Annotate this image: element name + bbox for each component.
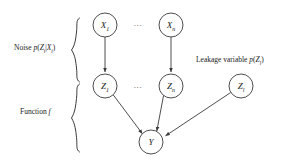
leakage-annotation-prefix: Leakage variable: [196, 55, 249, 64]
ellipsis-top: ...: [134, 18, 143, 28]
node-y[interactable]: Y: [139, 130, 163, 154]
function-brace: [72, 84, 80, 152]
noise-brace: [72, 18, 80, 82]
node-z1[interactable]: Z1: [93, 74, 117, 98]
diagram-svg: X1 Xn Z1 Zn Zl Y ... ...: [0, 0, 296, 163]
noise-annotation-prefix: Noise: [14, 43, 33, 52]
function-annotation-prefix: Function: [20, 107, 49, 116]
noise-brace-path: [72, 18, 80, 82]
edge-z1-to-y: [113, 95, 142, 134]
ellipsis-middle: ...: [134, 80, 143, 90]
node-zn[interactable]: Zn: [159, 74, 183, 98]
edge-zn-to-y: [157, 95, 164, 131]
leakage-annotation-label: Leakage variable p(Zl): [196, 56, 264, 66]
node-x1[interactable]: X1: [93, 13, 117, 37]
noise-annotation-label: Noise p(Zi|Xi): [14, 44, 55, 54]
node-xn[interactable]: Xn: [159, 13, 183, 37]
function-annotation-label: Function f: [20, 108, 51, 116]
function-brace-path: [72, 84, 80, 152]
diagram-canvas: X1 Xn Z1 Zn Zl Y ... ...: [0, 0, 296, 163]
function-symbol: f: [49, 107, 51, 116]
node-zl[interactable]: Zl: [229, 74, 253, 98]
edge-zl-to-y: [166, 93, 231, 136]
